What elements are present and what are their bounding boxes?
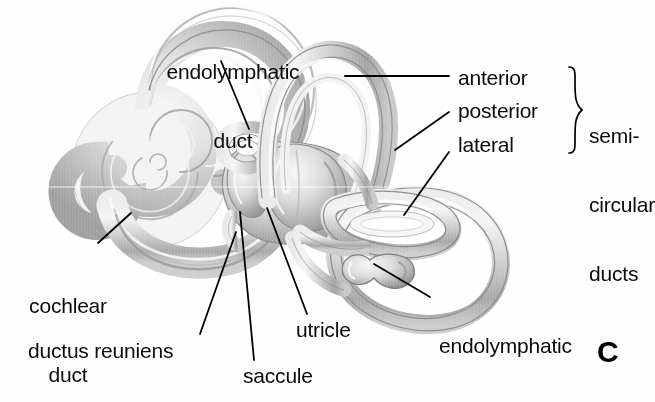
label-endolymphatic-sac: endolymphatic sac — [439, 288, 572, 402]
label-cochlear-duct-line2: duct — [8, 363, 128, 386]
figure-panel: endolymphatic duct cochlear duct ductus … — [0, 0, 655, 402]
panel-letter: C — [597, 337, 619, 367]
label-lateral: lateral — [458, 133, 514, 156]
label-endolymphatic-sac-line1: endolymphatic — [439, 334, 572, 357]
label-cochlear-duct-line1: cochlear — [8, 294, 128, 317]
leader-posterior — [395, 112, 449, 150]
label-semicircular-ducts-line3: ducts — [589, 262, 655, 285]
label-anterior: anterior — [458, 66, 528, 89]
label-semicircular-ducts: semi- circular ducts — [589, 78, 655, 331]
label-utricle: utricle — [296, 318, 351, 341]
label-endolymphatic-duct-line2: duct — [138, 129, 328, 152]
label-cochlear-duct: cochlear duct — [8, 248, 128, 402]
semicircular-ducts-brace — [569, 67, 582, 153]
label-semicircular-ducts-line1: semi- — [589, 124, 655, 147]
label-endolymphatic-duct-line1: endolymphatic — [138, 60, 328, 83]
label-ductus-reuniens: ductus reuniens — [28, 339, 173, 362]
label-endolymphatic-duct: endolymphatic duct — [138, 14, 328, 198]
label-posterior: posterior — [458, 99, 538, 122]
label-semicircular-ducts-line2: circular — [589, 193, 655, 216]
label-saccule: saccule — [243, 364, 313, 387]
